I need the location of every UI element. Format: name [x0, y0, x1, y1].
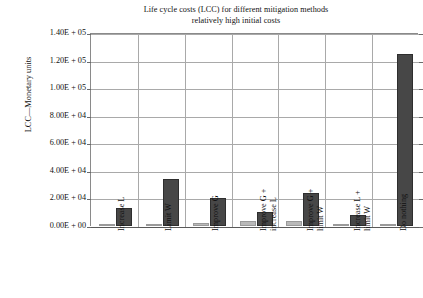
y-tick-mark-right [419, 117, 423, 118]
y-tick-label: 1.00E + 05 [4, 83, 86, 92]
bar-initial-costs-4 [286, 221, 302, 227]
y-tick-mark [87, 89, 91, 90]
chart-title-line-2: relatively high initial costs [192, 16, 281, 25]
y-tick-label: 0.00E + 00 [4, 221, 86, 230]
category-separator [185, 34, 186, 227]
y-tick-mark [87, 144, 91, 145]
bar-initial-costs-6 [380, 224, 396, 226]
y-tick-mark [87, 172, 91, 173]
y-tick-label: 8.00E + 04 [4, 111, 86, 120]
y-tick-label: 1.20E + 05 [4, 56, 86, 65]
y-tick-label: 6.00E + 04 [4, 138, 86, 147]
chart-title-line-1: Life cycle costs (LCC) for different mit… [144, 5, 329, 14]
category-separator [325, 34, 326, 227]
y-tick-mark-right [419, 227, 423, 228]
bar-initial-costs-3 [240, 221, 256, 226]
y-tick-mark [87, 62, 91, 63]
x-axis-label: Increase L + limit W [353, 165, 372, 231]
bar-initial-costs-2 [193, 223, 209, 226]
x-axis-label: Do nothing [399, 165, 409, 231]
gridline [91, 117, 419, 118]
y-axis-title: LCC—Monetary units [24, 15, 33, 175]
y-tick-mark-right [419, 62, 423, 63]
gridline [91, 34, 419, 35]
x-axis-label: Increase L [117, 165, 127, 231]
x-axis-label: Improve G + limit W [306, 165, 325, 231]
category-separator [278, 34, 279, 227]
x-axis-label: Limit W [164, 165, 174, 231]
category-separator [232, 34, 233, 227]
y-tick-mark [87, 117, 91, 118]
y-tick-mark [87, 227, 91, 228]
gridline [91, 89, 419, 90]
y-tick-label: 2.00E + 04 [4, 193, 86, 202]
category-separator [372, 34, 373, 227]
gridline [91, 144, 419, 145]
page-title: Life cycle costs (LCC) for different mit… [86, 5, 386, 26]
y-tick-mark-right [419, 199, 423, 200]
y-tick-mark [87, 34, 91, 35]
y-tick-mark-right [419, 172, 423, 173]
category-separator [138, 34, 139, 227]
y-tick-mark-right [419, 89, 423, 90]
bar-initial-costs-0 [99, 224, 115, 226]
bar-initial-costs-5 [333, 224, 349, 226]
gridline [91, 62, 419, 63]
y-tick-mark-right [419, 144, 423, 145]
x-axis-label: Improve G [211, 165, 221, 231]
bar-initial-costs-1 [146, 224, 162, 226]
y-tick-label: 4.00E + 04 [4, 166, 86, 175]
y-tick-mark [87, 199, 91, 200]
y-tick-label: 1.40E + 05 [4, 28, 86, 37]
x-axis-label: Improve G + increase L [259, 165, 278, 231]
y-tick-mark-right [419, 34, 423, 35]
